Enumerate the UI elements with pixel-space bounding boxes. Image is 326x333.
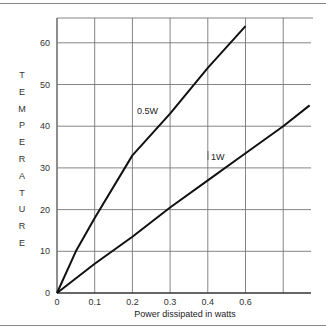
y-tick-label: 60 — [40, 38, 50, 48]
temperature-power-chart: 00.10.20.30.40.601020304050600.5W1WPower… — [0, 0, 326, 333]
y-tick-label: 40 — [40, 121, 50, 131]
series-label-1w: 1W — [211, 152, 225, 162]
x-axis-title: Power dissipated in watts — [134, 309, 236, 319]
x-tick-label: 0.2 — [126, 297, 139, 307]
x-tick-label: 0.6 — [239, 297, 252, 307]
y-tick-label: 50 — [40, 80, 50, 90]
x-tick-label: 0 — [54, 297, 59, 307]
y-tick-label: 30 — [40, 163, 50, 173]
x-tick-label: 0.3 — [164, 297, 177, 307]
series-label-0-5w: 0.5W — [137, 106, 159, 116]
y-tick-label: 0 — [45, 288, 50, 298]
y-tick-label: 10 — [40, 246, 50, 256]
x-tick-label: 0.1 — [88, 297, 101, 307]
y-tick-label: 20 — [40, 205, 50, 215]
x-tick-label: 0.4 — [202, 297, 215, 307]
